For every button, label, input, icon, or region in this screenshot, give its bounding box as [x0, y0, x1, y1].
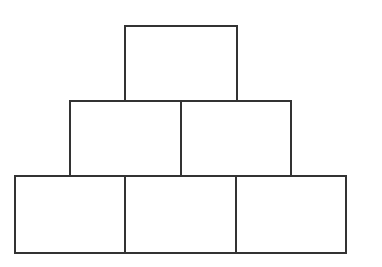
brick-row2-2 — [180, 100, 292, 178]
brick-row2-1 — [69, 100, 183, 178]
brick-row1-1 — [124, 25, 238, 103]
brick-row3-2 — [124, 175, 238, 254]
brick-row3-1 — [14, 175, 128, 254]
brick-row3-3 — [235, 175, 347, 254]
